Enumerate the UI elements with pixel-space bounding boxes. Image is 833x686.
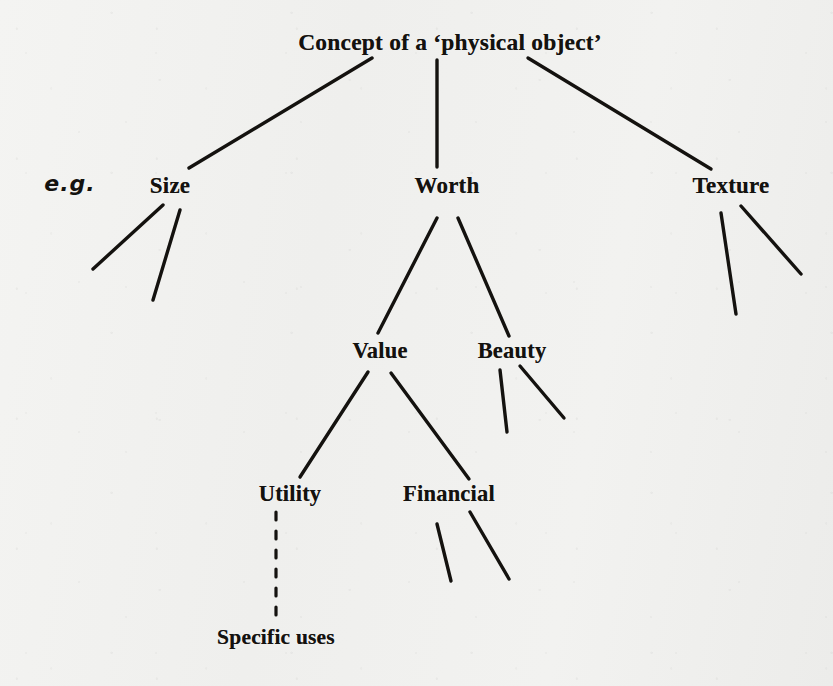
- node-texture: Texture: [693, 173, 770, 199]
- edge-layer: [0, 0, 833, 686]
- edge-worth-to-value: [378, 218, 437, 333]
- edge-texture-to-stub: [721, 213, 736, 314]
- edge-financial-to-stub: [470, 512, 509, 579]
- diagram-canvas: Concept of a ‘physical object’SizeWorthT…: [0, 0, 833, 686]
- node-beauty: Beauty: [478, 338, 547, 364]
- node-worth: Worth: [415, 173, 480, 199]
- node-value: Value: [352, 338, 407, 364]
- node-utility: Utility: [259, 481, 322, 507]
- node-specific: Specific uses: [217, 625, 335, 650]
- edge-size-to-stub: [93, 205, 163, 269]
- edge-texture-to-stub: [741, 206, 801, 274]
- edge-beauty-to-stub: [500, 370, 507, 432]
- eg-annotation: e.g.: [44, 171, 95, 196]
- edge-value-to-utility: [300, 372, 368, 477]
- edge-financial-to-stub: [437, 524, 451, 581]
- edge-root-to-texture: [528, 58, 711, 169]
- node-size: Size: [150, 173, 190, 199]
- node-root: Concept of a ‘physical object’: [298, 29, 602, 56]
- edge-worth-to-beauty: [458, 218, 509, 336]
- edge-root-to-size: [189, 58, 372, 168]
- edge-value-to-financial: [391, 373, 469, 479]
- edge-beauty-to-stub: [520, 366, 564, 418]
- node-financial: Financial: [403, 481, 495, 507]
- edge-size-to-stub: [153, 210, 180, 300]
